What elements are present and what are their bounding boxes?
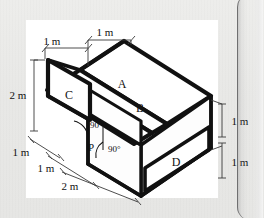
dim-left-depth: 1 m (13, 146, 30, 158)
angle-label-left: 90° (90, 120, 103, 130)
point-label-p: P (88, 141, 94, 153)
angle-arc-left (74, 121, 88, 137)
dim-top-right: 1 m (97, 26, 114, 38)
page-edge-border (237, 0, 260, 218)
dim-bottom-second: 2 m (62, 180, 79, 192)
isometric-drawing: 1 m 1 m 2 m 1 m 1 m 2 m 1 m 1 m A B C D … (0, 0, 264, 218)
figure-screenshot: 1 m 1 m 2 m 1 m 1 m 2 m 1 m 1 m A B C D … (0, 0, 264, 218)
face-label-d: D (172, 155, 181, 169)
angle-label-right: 90° (108, 144, 121, 154)
face-label-a: A (118, 77, 127, 91)
face-label-b: B (136, 101, 144, 115)
dim-left-vertical: 2 m (10, 89, 27, 101)
dim-top-left: 1 m (44, 35, 61, 47)
dim-bottom-first: 1 m (38, 162, 55, 174)
face-label-c: C (65, 88, 73, 102)
